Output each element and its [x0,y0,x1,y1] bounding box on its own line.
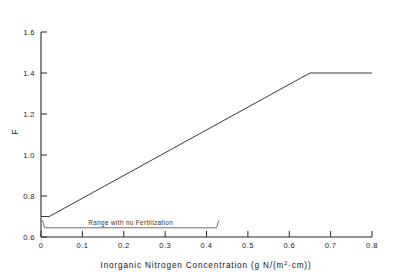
y-tick-label-0-8: 0.8 [23,192,35,201]
chart-figure: 1.6 1.4 1.2 1.0 0.8 0.6 0 0.1 0.2 0.3 0.… [0,0,400,277]
y-ticks-group: 1.6 1.4 1.2 1.0 0.8 0.6 [23,28,47,242]
annotation-bracket-group: Range with no Fertilization [43,219,219,228]
x-axis-title-part2: ·cm)) [288,261,311,270]
x-tick-label-0-6: 0.6 [283,241,295,250]
axes-group [41,32,372,237]
x-tick-label-0-5: 0.5 [242,241,254,250]
y-tick-label-1-0: 1.0 [23,151,35,160]
no-fertilization-label: Range with no Fertilization [88,219,173,227]
x-tick-label-0-1: 0.1 [77,241,89,250]
x-tick-label-0-4: 0.4 [201,241,213,250]
x-tick-label-0-2: 0.2 [118,241,130,250]
y-tick-label-1-6: 1.6 [23,28,35,37]
x-axis-title: Inorganic Nitrogen Concentration (g N/(m… [101,260,312,270]
y-tick-label-0-6: 0.6 [23,233,35,242]
x-tick-label-0: 0 [39,241,44,250]
x-axis-title-part1: Inorganic Nitrogen Concentration (g N/(m [101,261,285,270]
y-tick-label-1-4: 1.4 [23,69,35,78]
data-series-line [41,73,372,217]
y-axis-title: F [11,129,20,134]
x-tick-label-0-7: 0.7 [325,241,337,250]
x-ticks-group: 0 0.1 0.2 0.3 0.4 0.5 0.6 0.7 0.8 [39,231,378,250]
x-tick-label-0-8: 0.8 [366,241,378,250]
x-tick-label-0-3: 0.3 [159,241,171,250]
y-tick-label-1-2: 1.2 [23,110,35,119]
line-chart-canvas: 1.6 1.4 1.2 1.0 0.8 0.6 0 0.1 0.2 0.3 0.… [0,0,400,277]
